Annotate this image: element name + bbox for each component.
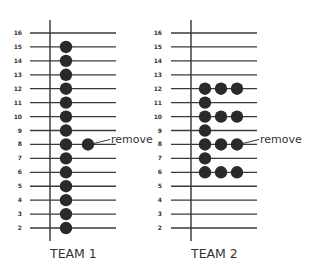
- team1-counter-dot: [60, 152, 72, 164]
- team1-counter-dot: [60, 194, 72, 206]
- team2-counter-dot: [215, 83, 227, 95]
- team2-row-label: 8: [158, 140, 162, 147]
- team2-title: TEAM 2: [190, 246, 238, 261]
- team2-counter-dot: [199, 166, 211, 178]
- team1-removed-dot: [82, 138, 94, 150]
- team2-counter-dot: [231, 138, 243, 150]
- team2-counter-dot: [199, 152, 211, 164]
- team1-counter-dot: [60, 166, 72, 178]
- team1-row-label: 6: [18, 168, 22, 175]
- team2-row-label: 6: [158, 168, 162, 175]
- team2-counter-dot: [215, 166, 227, 178]
- team1-row-label: 15: [14, 43, 22, 50]
- team1-annotation-leader: [94, 139, 110, 143]
- team1-counter-dot: [60, 55, 72, 67]
- team2-counter-dot: [215, 138, 227, 150]
- team1-counter-dot: [60, 69, 72, 81]
- team2-counter-dot: [199, 124, 211, 136]
- team2-row-label: 14: [154, 57, 162, 64]
- team1-row-label: 16: [14, 29, 22, 36]
- team-counter-diagram: 1615141312111098765432removeTEAM 1161514…: [0, 0, 324, 270]
- team2-row-label: 13: [154, 71, 162, 78]
- team2-row-label: 7: [158, 154, 162, 161]
- team1-row-label: 8: [18, 140, 22, 147]
- team2-counter-dot: [199, 138, 211, 150]
- team2-row-label: 12: [154, 85, 162, 92]
- team2-counter-dot: [231, 110, 243, 122]
- team1-counter-dot: [60, 180, 72, 192]
- team2-counter-dot: [231, 166, 243, 178]
- team2-row-label: 9: [158, 127, 162, 134]
- team2-annotation-leader: [243, 139, 259, 143]
- team2-row-label: 5: [158, 182, 162, 189]
- team1-counter-dot: [60, 138, 72, 150]
- team1-row-label: 2: [18, 224, 22, 231]
- team2-row-label: 10: [154, 113, 162, 120]
- team1-row-label: 3: [18, 210, 22, 217]
- team2-row-label: 15: [154, 43, 162, 50]
- team1-counter-dot: [60, 96, 72, 108]
- team1-row-label: 5: [18, 182, 22, 189]
- team1-counter-dot: [60, 208, 72, 220]
- team2-counter-dot: [199, 83, 211, 95]
- team1-annotation-remove: remove: [111, 133, 153, 146]
- team2-counter-dot: [215, 110, 227, 122]
- team1-row-label: 10: [14, 113, 22, 120]
- team1-row-label: 9: [18, 127, 22, 134]
- team2-annotation-remove: remove: [260, 133, 302, 146]
- team1-row-label: 7: [18, 154, 22, 161]
- team1-row-label: 13: [14, 71, 22, 78]
- team2-row-label: 16: [154, 29, 162, 36]
- team2-counter-dot: [199, 96, 211, 108]
- team2-row-label: 4: [158, 196, 162, 203]
- team1-counter-dot: [60, 124, 72, 136]
- team1-counter-dot: [60, 110, 72, 122]
- team1-counter-dot: [60, 222, 72, 234]
- team1-row-label: 14: [14, 57, 22, 64]
- team1-title: TEAM 1: [49, 246, 97, 261]
- team2-counter-dot: [231, 83, 243, 95]
- team2-row-label: 2: [158, 224, 162, 231]
- team2-row-label: 3: [158, 210, 162, 217]
- team1-counter-dot: [60, 41, 72, 53]
- team2-counter-dot: [199, 110, 211, 122]
- team1-row-label: 4: [18, 196, 22, 203]
- team1-row-label: 12: [14, 85, 22, 92]
- team2-row-label: 11: [154, 99, 162, 106]
- team1-counter-dot: [60, 83, 72, 95]
- team1-row-label: 11: [14, 99, 22, 106]
